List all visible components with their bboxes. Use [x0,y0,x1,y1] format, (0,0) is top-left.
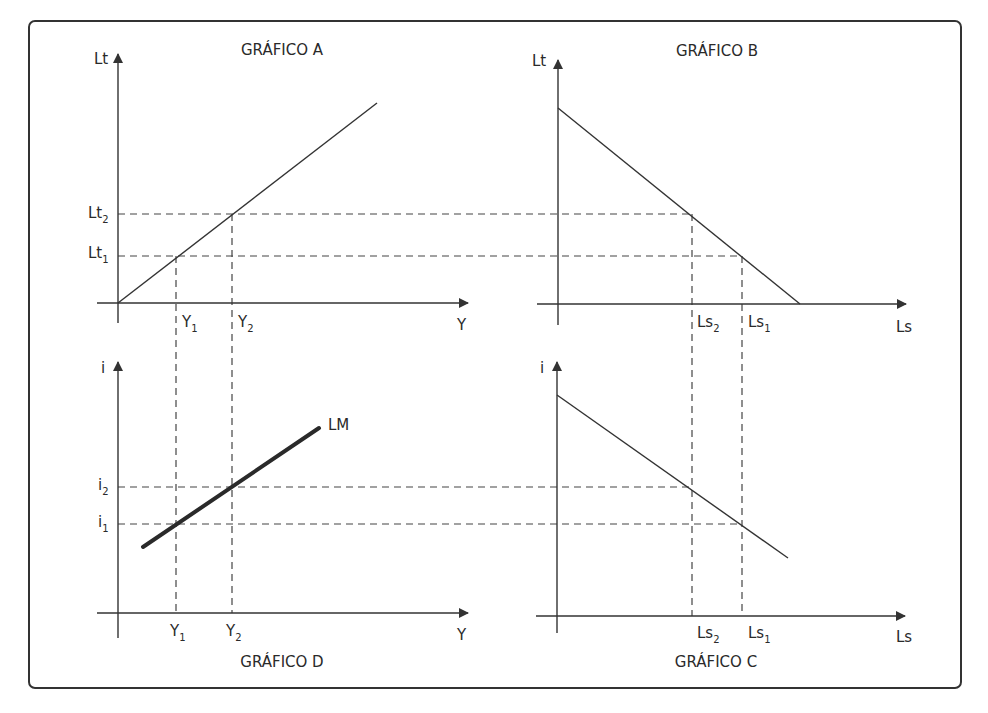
graph-c-title: GRÁFICO C [675,652,757,671]
graph-d: LM GRÁFICO D i Y i2 i1 Y1 Y2 [97,359,468,671]
graph-c-x-label: Ls [896,628,912,646]
graph-d-title: GRÁFICO D [240,652,323,671]
graph-a-y-label: Lt [94,50,108,68]
graph-a-y1-label: Y1 [181,313,198,334]
graph-d-y2-label: Y2 [225,622,242,643]
graph-d-x-label: Y [456,626,467,644]
lt2-label: Lt2 [88,204,109,225]
i1-label: i1 [98,513,109,534]
graph-c: GRÁFICO C i Ls Ls2 Ls1 [536,359,912,671]
graph-c-curve [557,395,788,558]
lt1-label: Lt1 [88,244,109,265]
graph-c-y-label: i [540,359,544,377]
graph-a-title: GRÁFICO A [241,40,324,59]
graph-b-ls1-label: Ls1 [748,313,771,334]
lm-label: LM [328,416,349,434]
graph-b-ls2-label: Ls2 [697,313,720,334]
graph-c-ls1-label: Ls1 [748,624,771,645]
graph-b-title: GRÁFICO B [676,41,758,60]
graph-a-curve [118,103,377,303]
graph-a: GRÁFICO A Lt Y Lt2 Lt1 Y1 Y2 [88,40,468,334]
dashed-guides [118,214,742,616]
graph-a-y2-label: Y2 [237,313,254,334]
diagram-canvas: GRÁFICO A Lt Y Lt2 Lt1 Y1 Y2 GRÁFICO B L… [0,0,988,713]
i2-label: i2 [98,476,109,497]
graph-d-y1-label: Y1 [169,622,186,643]
graph-b-y-label: Lt [532,52,546,70]
graph-c-ls2-label: Ls2 [697,624,720,645]
graph-a-x-label: Y [456,316,467,334]
graph-d-y-label: i [101,359,105,377]
graph-b-x-label: Ls [896,318,912,336]
graph-b-curve [558,108,800,304]
outer-frame [29,21,961,688]
graph-b: GRÁFICO B Lt Ls Ls2 Ls1 [532,41,912,336]
